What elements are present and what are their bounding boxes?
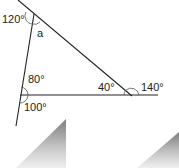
label-left-interior-angle: 80° (28, 73, 45, 85)
angle-arc-right-exterior (126, 88, 139, 95)
label-top-exterior-angle: 120° (2, 13, 25, 25)
angle-arc-right-interior (124, 90, 126, 95)
decorative-gradient-triangle-left (16, 119, 66, 168)
label-left-exterior-angle: 100° (24, 101, 47, 113)
triangle-angle-diagram: 120° a 80° 100° 40° 140° (0, 0, 179, 168)
label-top-interior-angle: a (37, 27, 44, 39)
label-right-exterior-angle: 140° (141, 81, 164, 93)
angle-arc-top-exterior (25, 12, 33, 24)
label-right-interior-angle: 40° (98, 81, 115, 93)
decorative-gradient-triangle-right (137, 132, 179, 168)
